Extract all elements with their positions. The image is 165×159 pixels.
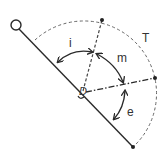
- top-dot: [100, 18, 104, 22]
- label-T: T: [142, 31, 150, 45]
- dashdot-radius-line: [86, 78, 155, 92]
- main-solid-line: [19, 29, 133, 147]
- endpoint-circle: [11, 20, 21, 30]
- angle-i-arrow: [58, 51, 92, 62]
- bottom-dot: [131, 145, 135, 149]
- right-dot: [153, 76, 157, 80]
- angle-diagram: i m e T D: [0, 0, 165, 159]
- arc-T: [35, 21, 157, 147]
- label-m: m: [117, 51, 127, 65]
- label-i: i: [69, 36, 72, 50]
- label-center-D: D: [79, 85, 87, 97]
- angle-e-arrow: [114, 91, 125, 119]
- diagram-canvas: i m e T D: [0, 0, 165, 159]
- label-e: e: [127, 105, 134, 119]
